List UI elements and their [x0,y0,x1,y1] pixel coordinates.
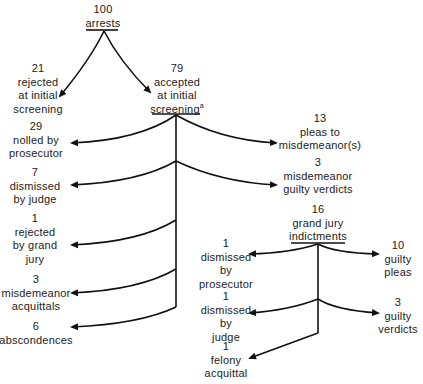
node-ind-dismissed-judge: 1 dismissed by judge [201,290,252,344]
node-label: rejected [13,226,57,240]
node-label: dismissed [10,180,61,194]
node-count: 13 [279,112,361,126]
node-label: by judge [10,193,61,207]
node-count: 21 [13,62,63,76]
node-label: dismissed [199,251,253,265]
node-count: 6 [0,320,73,334]
node-label: pleas [384,266,411,280]
node-guilty-verdicts: 3 guilty verdicts [378,296,418,337]
node-label: by [201,317,252,331]
node-indictments: 16 grand jury indictments [289,203,347,244]
node-label: prosecutor [199,278,253,292]
node-label: acquittal [205,367,248,381]
node-label: guilty [378,310,418,324]
node-label: grand jury [289,217,347,231]
node-label: misdemeanor [2,287,71,301]
node-label: felony [205,354,248,368]
node-rejected-screening: 21 rejected at initial screening [13,62,63,116]
node-count: 3 [378,296,418,310]
node-ind-dismissed-prosecutor: 1 dismissed by prosecutor [199,237,253,291]
node-accepted-screening: 79 accepted at initial screeninga [150,62,204,116]
node-label: accepted [150,76,204,90]
node-count: 79 [150,62,204,76]
node-nolled: 29 nolled by prosecutor [9,120,63,161]
node-label: indictments [289,230,347,244]
node-label: jury [13,253,57,267]
node-count: 16 [289,203,347,217]
node-arrests: 100 arrests [85,3,120,30]
node-label: rejected [13,76,63,90]
node-count: 29 [9,120,63,134]
node-label: prosecutor [9,147,63,161]
node-felony-acquittal: 1 felony acquittal [205,340,248,381]
node-dismissed-judge: 7 dismissed by judge [10,166,61,207]
node-count: 1 [201,290,252,304]
node-count: 10 [384,239,411,253]
node-misdemeanor-guilty: 3 misdemeanor guilty verdicts [283,156,353,197]
node-count: 3 [283,156,353,170]
node-pleas-misdemeanor: 13 pleas to misdemeanor(s) [279,112,361,153]
node-label: misdemeanor [283,170,353,184]
node-label: screening [13,103,63,117]
node-label: verdicts [378,323,418,337]
node-label: guilty verdicts [283,183,353,197]
node-label: dismissed [201,304,252,318]
node-count: 1 [13,212,57,226]
footnote-marker: a [200,102,204,109]
node-guilty-pleas: 10 guilty pleas [384,239,411,280]
node-misdemeanor-acquittals: 3 misdemeanor acquittals [2,273,71,314]
node-label: nolled by [9,134,63,148]
node-label: guilty [384,253,411,267]
node-label: abscondences [0,334,73,348]
node-count: 1 [199,237,253,251]
node-label: at initial [150,89,204,103]
node-count: 3 [2,273,71,287]
node-label: at initial [13,89,63,103]
node-label: by grand [13,239,57,253]
node-count: 7 [10,166,61,180]
node-rejected-grand-jury: 1 rejected by grand jury [13,212,57,266]
node-count: 100 [85,3,120,17]
node-label: screening [150,103,200,115]
node-label: acquittals [2,300,71,314]
node-label: misdemeanor(s) [279,139,361,153]
node-count: 1 [205,340,248,354]
node-label: by [199,264,253,278]
node-label: arrests [85,17,120,31]
node-abscondences: 6 abscondences [0,320,73,347]
node-label: pleas to [279,126,361,140]
